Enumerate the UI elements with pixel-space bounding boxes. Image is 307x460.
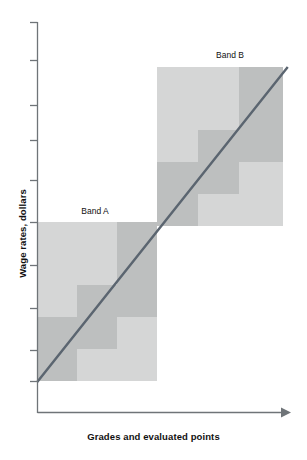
- x-axis-title: Grades and evaluated points: [0, 431, 307, 442]
- band-b-step-2: [198, 130, 239, 194]
- band-b-step-1: [157, 162, 198, 226]
- y-axis-title: Wage rates, dollars: [17, 164, 28, 304]
- x-axis-arrow-icon: [281, 408, 291, 418]
- chart-plot-area: [0, 0, 307, 460]
- y-axis-ticks: [30, 23, 38, 382]
- band-b-label: Band B: [195, 50, 265, 60]
- band-a-step-3: [117, 222, 157, 317]
- band-a-step-2: [77, 285, 117, 349]
- band-a-label: Band A: [60, 206, 130, 216]
- wage-band-chart: Band A Band B Wage rates, dollars Grades…: [0, 0, 307, 460]
- band-a-step-1: [37, 317, 77, 381]
